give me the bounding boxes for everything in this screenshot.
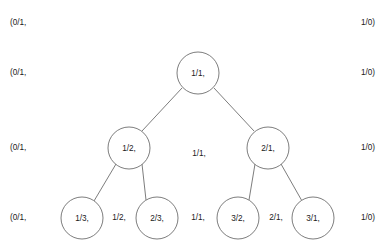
right-boundary-label: 1/0)	[361, 143, 375, 152]
node-label: 3/1,	[306, 214, 320, 223]
tree-canvas: 1/1,1/2,2/1,1/3,2/3,3/2,3/1, 1/1,1/2,1/1…	[0, 0, 385, 245]
right-boundary-label: 1/0)	[361, 18, 375, 27]
left-boundary-label: (0/1,	[10, 213, 26, 222]
tree-edge	[142, 164, 146, 200]
node-label: 2/1,	[261, 144, 275, 153]
node-label: 3/2,	[231, 214, 245, 223]
tree-node[interactable]: 1/1,	[177, 52, 219, 94]
tree-node[interactable]: 1/2,	[108, 127, 150, 169]
right-boundary-label: 1/0)	[361, 68, 375, 77]
right-boundary-label: 1/0)	[361, 213, 375, 222]
node-label: 2/3,	[150, 214, 164, 223]
tree-node[interactable]: 2/1,	[247, 127, 289, 169]
gap-label: 2/1,	[269, 213, 283, 222]
tree-node[interactable]: 1/3,	[61, 197, 103, 239]
tree-node[interactable]: 2/3,	[136, 197, 178, 239]
tree-edge	[281, 164, 302, 201]
left-boundary-label: (0/1,	[10, 18, 26, 27]
left-boundary-label: (0/1,	[10, 68, 26, 77]
left-boundary-label: (0/1,	[10, 143, 26, 152]
tree-node[interactable]: 3/1,	[292, 197, 334, 239]
gap-label: 1/2,	[112, 213, 126, 222]
tree-edge	[142, 88, 182, 131]
tree-node[interactable]: 3/2,	[217, 197, 259, 239]
tree-side-labels-group: (0/1,1/0)(0/1,1/0)(0/1,1/0)(0/1,1/0)	[10, 18, 375, 222]
gap-label: 1/1,	[192, 149, 206, 158]
stern-brocot-tree-diagram: 1/1,1/2,2/1,1/3,2/3,3/2,3/1, 1/1,1/2,1/1…	[0, 0, 385, 245]
node-label: 1/2,	[122, 144, 136, 153]
gap-label: 1/1,	[191, 213, 205, 222]
tree-nodes-group: 1/1,1/2,2/1,1/3,2/3,3/2,3/1,	[61, 52, 334, 239]
tree-edge	[249, 164, 255, 200]
node-label: 1/1,	[191, 69, 205, 78]
tree-edge	[94, 164, 116, 201]
tree-edge	[214, 88, 254, 131]
node-label: 1/3,	[75, 214, 89, 223]
